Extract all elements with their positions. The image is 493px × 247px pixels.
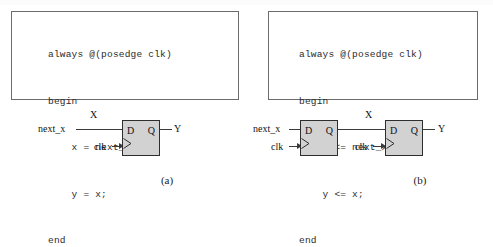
signal-label-clk: clk <box>94 142 106 152</box>
clock-edge-wedge-icon <box>123 138 132 149</box>
signal-label-next-x: next_x <box>38 124 65 134</box>
signal-label-clk-2: clk <box>355 142 367 152</box>
clock-edge-wedge-icon <box>386 138 395 149</box>
flip-flop-2: D Q <box>385 120 423 156</box>
wire-q2-to-y <box>423 129 435 130</box>
ff-pin-d: D <box>127 126 134 136</box>
circuit-diagram-a: next_x X clk D Q Y <box>0 104 246 162</box>
flip-flop-1: D Q <box>122 120 160 156</box>
circuit-diagram-b: next_x clk D Q X clk <box>247 104 493 162</box>
subcaption-b: (b) <box>247 174 493 186</box>
code-line: end <box>269 233 477 247</box>
wire-next-x-to-d <box>76 129 122 130</box>
code-box-a: always @(posedge clk) begin x = next_x; … <box>11 11 239 100</box>
panel-a: always @(posedge clk) begin x = next_x; … <box>0 0 246 202</box>
ff-pin-d: D <box>390 126 397 136</box>
wire-q-to-y <box>160 129 172 130</box>
ff-pin-d: D <box>305 126 312 136</box>
code-line: end <box>12 233 238 247</box>
ff-pin-q: Q <box>411 126 418 136</box>
wire-q1-to-d2 <box>338 129 385 130</box>
signal-label-y: Y <box>174 124 181 134</box>
code-line: always @(posedge clk) <box>12 47 238 63</box>
signal-label-next-x: next_x <box>253 124 280 134</box>
signal-label-y: Y <box>438 124 445 134</box>
panel-b: always @(posedge clk) begin x <= next_x;… <box>247 0 493 202</box>
code-line: always @(posedge clk) <box>269 47 477 63</box>
code-line: y = x; <box>12 187 238 203</box>
signal-label-x: X <box>365 110 372 120</box>
ff-pin-q: Q <box>326 126 333 136</box>
signal-label-x: X <box>90 110 97 120</box>
wire-next-x-to-d1 <box>289 129 300 130</box>
ff-pin-q: Q <box>148 126 155 136</box>
clock-edge-wedge-icon <box>301 138 310 149</box>
code-line: y <= x; <box>269 187 477 203</box>
code-box-b: always @(posedge clk) begin x <= next_x;… <box>268 11 478 100</box>
flip-flop-1: D Q <box>300 120 338 156</box>
signal-label-clk-1: clk <box>271 142 283 152</box>
figure-verilog-blocking-vs-nonblocking: always @(posedge clk) begin x = next_x; … <box>0 0 493 202</box>
